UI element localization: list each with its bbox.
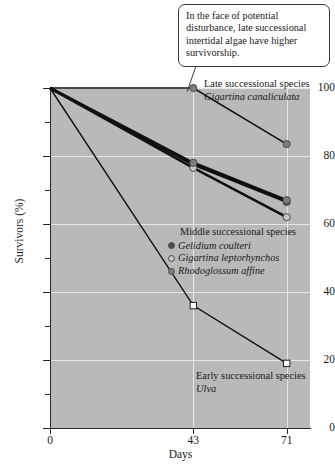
- data-point-43: [190, 302, 196, 308]
- y-tick-80: [43, 156, 50, 157]
- y-tick-60: [43, 224, 50, 225]
- data-point-71: [283, 141, 290, 148]
- legend: Middle successional species Gelidium cou…: [168, 226, 328, 277]
- y-tick-20: [43, 360, 50, 361]
- y-tick-100: [43, 88, 50, 89]
- late-successional-species: Gigartina canaliculata: [204, 91, 332, 104]
- late-successional-title: Late successional species: [204, 78, 332, 91]
- legend-marker-icon: [168, 255, 175, 262]
- y-axis-title: Survivors (%): [13, 176, 25, 286]
- data-point-71: [283, 214, 290, 221]
- y-tick-0: [43, 428, 50, 429]
- x-tick-label-71: 71: [267, 434, 307, 446]
- legend-label: Rhodoglossum affine: [178, 265, 265, 278]
- early-successional-title: Early successional species: [196, 370, 328, 383]
- early-successional-species: Ulva: [196, 383, 328, 396]
- early-successional-annotation: Early successional species Ulva: [196, 370, 328, 395]
- callout-box: In the face of potential disturbance, la…: [178, 4, 330, 67]
- legend-item: Rhodoglossum affine: [168, 265, 328, 278]
- survivorship-chart-figure: 020406080100 04371 Survivors (%) Days In…: [0, 0, 335, 464]
- x-axis-title: Days: [50, 448, 311, 460]
- data-point-71: [283, 360, 289, 366]
- y-tick-label-0: 0: [309, 422, 335, 434]
- legend-items: Gelidium coulteriGigartina leptorhynchos…: [168, 240, 328, 278]
- data-point-43: [190, 84, 197, 91]
- y-tick-label-20: 20: [309, 354, 335, 366]
- legend-marker-icon: [168, 242, 175, 249]
- late-successional-annotation: Late successional species Gigartina cana…: [204, 78, 332, 103]
- series-line: [50, 88, 287, 200]
- y-tick-label-80: 80: [309, 150, 335, 162]
- data-point-43: [190, 159, 197, 166]
- callout-text: In the face of potential disturbance, la…: [186, 10, 306, 58]
- x-tick-label-43: 43: [173, 434, 213, 446]
- series-rhodoglossum-affine: [50, 88, 290, 204]
- x-tick-label-0: 0: [30, 434, 70, 446]
- legend-label: Gigartina leptorhynchos: [178, 252, 279, 265]
- y-tick-label-40: 40: [309, 286, 335, 298]
- data-point-71: [283, 197, 290, 204]
- legend-label: Gelidium coulteri: [178, 240, 251, 253]
- legend-item: Gelidium coulteri: [168, 240, 328, 253]
- legend-title: Middle successional species: [180, 226, 328, 239]
- legend-item: Gigartina leptorhynchos: [168, 252, 328, 265]
- y-tick-40: [43, 292, 50, 293]
- x-axis-line: [50, 428, 311, 429]
- legend-marker-icon: [168, 268, 175, 275]
